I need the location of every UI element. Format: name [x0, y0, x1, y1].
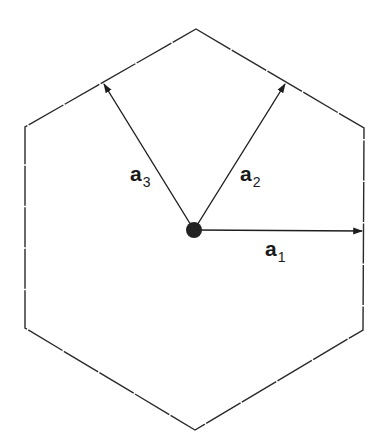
label-a1-subscript: 1 [278, 249, 286, 265]
label-a2-vector: a [240, 162, 252, 185]
vector-a1-arrow [194, 230, 362, 231]
label-a3: a3 [130, 163, 150, 184]
vector-a2-arrow [194, 84, 285, 230]
origin-dot [186, 222, 202, 238]
label-a2: a2 [240, 163, 260, 184]
label-a3-subscript: 3 [143, 174, 151, 190]
label-a1: a1 [265, 238, 285, 259]
hexagon-diagram [0, 0, 385, 447]
label-a3-vector: a [130, 162, 142, 185]
vector-a3-arrow [104, 84, 194, 230]
label-a2-subscript: 2 [253, 174, 261, 190]
label-a1-vector: a [265, 237, 277, 260]
